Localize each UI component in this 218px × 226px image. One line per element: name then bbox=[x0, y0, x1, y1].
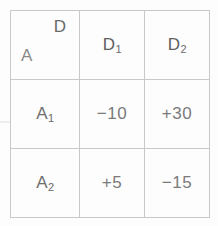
column-header-d2-base: D bbox=[168, 35, 180, 54]
cell-a2-d2-value: −15 bbox=[162, 173, 192, 193]
table-header-row: D A D1 D2 bbox=[11, 11, 210, 80]
row-header-a1-base: A bbox=[36, 104, 47, 123]
column-header-d2-subscript: 2 bbox=[181, 43, 187, 55]
column-header-d2: D2 bbox=[145, 11, 210, 80]
cell-a2-d1: +5 bbox=[80, 149, 145, 218]
figure-canvas: D A D1 D2 A1 −10 +30 A2 bbox=[0, 0, 218, 226]
column-header-d1-subscript: 1 bbox=[116, 43, 122, 55]
table-row: A2 +5 −15 bbox=[11, 149, 210, 218]
column-header-d1: D1 bbox=[80, 11, 145, 80]
cell-a2-d1-value: +5 bbox=[102, 173, 122, 193]
row-header-a1: A1 bbox=[11, 80, 80, 149]
row-header-a2-base: A bbox=[36, 173, 47, 192]
row-header-a1-subscript: 1 bbox=[48, 112, 54, 124]
row-group-label: A bbox=[21, 46, 32, 66]
corner-header-cell: D A bbox=[11, 11, 80, 80]
payoff-matrix-table: D A D1 D2 A1 −10 +30 A2 bbox=[10, 10, 210, 218]
cell-a1-d1-value: −10 bbox=[97, 104, 127, 124]
row-header-a2-subscript: 2 bbox=[48, 181, 54, 193]
cell-a1-d1: −10 bbox=[80, 80, 145, 149]
table-row: A1 −10 +30 bbox=[11, 80, 210, 149]
cell-a2-d2: −15 bbox=[145, 149, 210, 218]
cell-a1-d2-value: +30 bbox=[162, 104, 192, 124]
cell-a1-d2: +30 bbox=[145, 80, 210, 149]
column-header-d1-base: D bbox=[103, 35, 115, 54]
row-header-a2: A2 bbox=[11, 149, 80, 218]
column-group-label: D bbox=[54, 17, 66, 37]
